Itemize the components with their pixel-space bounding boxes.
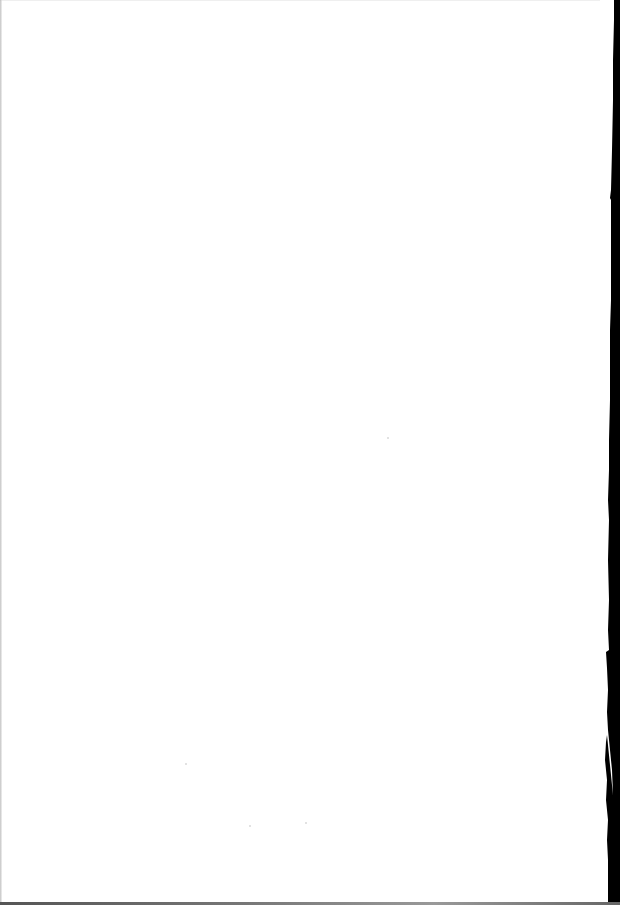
scan-speck <box>305 822 307 824</box>
blank-scanned-page <box>0 0 620 905</box>
scan-dark-edge <box>580 0 620 905</box>
scan-speck <box>249 825 251 827</box>
page-top-border <box>0 0 600 1</box>
page-left-border <box>0 0 2 905</box>
scan-speck <box>387 437 389 439</box>
scan-speck <box>185 763 187 765</box>
